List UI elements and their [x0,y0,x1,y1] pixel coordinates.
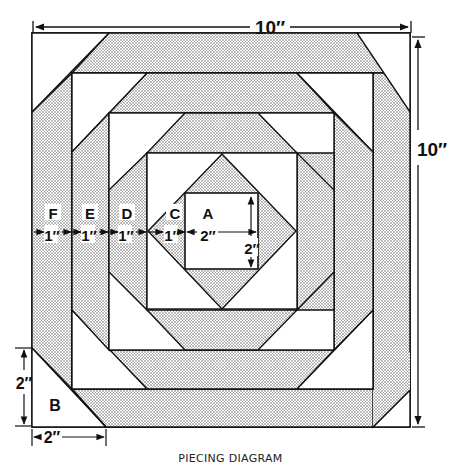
dim-c: 1″ [164,227,180,244]
label-f: F [48,205,57,222]
dim-d: 1″ [118,227,134,244]
dim-e: 1″ [81,227,97,244]
label-e: E [85,205,95,222]
label-b: B [49,397,61,414]
right-dimension-label: 10″ [417,139,447,160]
label-a: A [203,205,214,222]
label-d: D [122,205,133,222]
dim-a-height: 2″ [244,240,260,257]
piecing-diagram: 10″ 10″ F E D C A 1″ 1″ 1″ 1″ 2″ [0,0,461,476]
ring-f-bottom [72,389,373,427]
diagram-caption: PIECING DIAGRAM [0,452,461,465]
dim-b-height: 2″ [16,375,33,392]
right-dimension [412,37,425,427]
top-dimension-label: 10″ [255,17,285,38]
label-c: C [170,205,181,222]
piece-a [185,193,258,269]
dim-a-width: 2″ [200,227,216,244]
top-dimension [33,21,411,33]
dim-f: 1″ [44,227,60,244]
dim-b-width: 2″ [44,429,61,446]
